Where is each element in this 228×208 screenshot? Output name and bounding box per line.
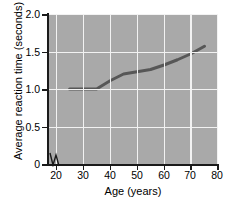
gridline-horizontal bbox=[48, 89, 218, 90]
x-tick-label: 60 bbox=[153, 170, 175, 181]
x-axis-title: Age (years) bbox=[48, 185, 218, 197]
y-tick-mark bbox=[42, 52, 48, 54]
chart-figure: 2.0 1.5 1.0 0.5 0 20 30 40 50 60 70 80 A… bbox=[0, 0, 228, 208]
x-tick-label: 30 bbox=[72, 170, 94, 181]
x-axis-line bbox=[47, 164, 219, 166]
x-tick-label: 20 bbox=[45, 170, 67, 181]
y-tick-mark bbox=[42, 127, 48, 129]
x-tick-label: 50 bbox=[126, 170, 148, 181]
x-tick-label: 80 bbox=[206, 170, 228, 181]
y-tick-mark bbox=[42, 14, 48, 16]
y-axis-title: Average reaction time (seconds) bbox=[12, 1, 24, 161]
gridline-horizontal bbox=[48, 14, 218, 15]
x-tick-label: 40 bbox=[99, 170, 121, 181]
gridline-horizontal bbox=[48, 127, 218, 128]
plot-area bbox=[48, 14, 218, 164]
y-tick-mark bbox=[42, 164, 48, 166]
y-tick-mark bbox=[42, 89, 48, 91]
gridline-horizontal bbox=[48, 52, 218, 53]
x-tick-label: 70 bbox=[179, 170, 201, 181]
